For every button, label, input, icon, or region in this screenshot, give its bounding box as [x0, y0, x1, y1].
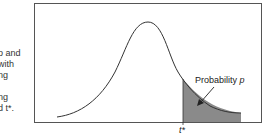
shaded-tail-area	[183, 79, 241, 122]
density-curve	[57, 22, 241, 117]
density-diagram: Probability p t*	[0, 0, 263, 135]
plot-frame	[35, 4, 262, 123]
probability-label: Probability p	[195, 75, 245, 85]
annotation-arrow	[200, 87, 214, 103]
t-star-label: t*	[179, 125, 186, 135]
